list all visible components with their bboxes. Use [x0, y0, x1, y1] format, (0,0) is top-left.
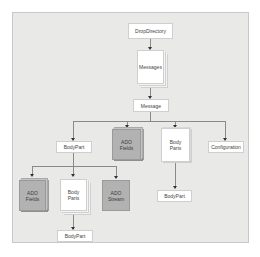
node-label: Messages — [139, 64, 162, 70]
node-label: BodyPart — [64, 144, 85, 150]
arrow-icon — [173, 186, 177, 189]
connector-bodypart-bus — [73, 153, 74, 166]
node-label: Configuration — [211, 144, 241, 150]
node-ado-fields-2: ADO Fields — [19, 180, 46, 211]
node-label: Message — [141, 103, 161, 109]
arrow-icon — [125, 125, 129, 128]
node-bodypart-2: BodyPart — [57, 230, 93, 242]
arrow-icon — [30, 174, 34, 177]
node-body-parts-1: Body Parts — [161, 128, 190, 162]
node-ado-stream: ADO Stream — [102, 180, 130, 211]
message-children-bus — [73, 121, 226, 122]
connector-bodyparts-right-bodypart — [175, 162, 176, 188]
node-label: ADO Stream — [108, 190, 124, 202]
node-bodypart-1: BodyPart — [56, 141, 92, 153]
node-ado-fields-1: ADO Fields — [112, 129, 141, 160]
node-label: DropDirectory — [135, 28, 166, 34]
node-messages: Messages — [137, 50, 164, 84]
node-label: ADO Fields — [26, 190, 39, 202]
node-label: BodyPart — [65, 233, 86, 239]
bodypart-children-bus — [32, 166, 117, 167]
node-drop-directory: DropDirectory — [128, 23, 173, 39]
node-configuration: Configuration — [208, 141, 244, 153]
diagram-frame — [12, 12, 249, 243]
arrow-icon — [71, 174, 75, 177]
node-label: Body Parts — [68, 189, 80, 201]
node-message: Message — [133, 99, 169, 112]
connector-message-bus — [150, 112, 151, 121]
node-label: ADO Fields — [120, 139, 133, 151]
node-bodypart-3: BodyPart — [157, 190, 192, 202]
node-label: Body Parts — [170, 139, 182, 151]
arrow-icon — [114, 176, 118, 179]
node-label: BodyPart — [164, 193, 185, 199]
node-body-parts-2: Body Parts — [60, 179, 87, 211]
